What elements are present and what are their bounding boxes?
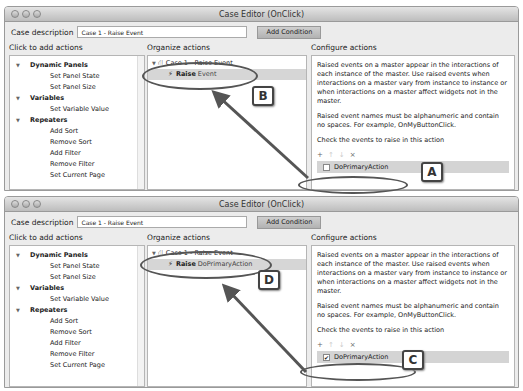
highlight-ellipse-b [142, 62, 258, 90]
annotation-arrows [0, 0, 523, 391]
callout-b: B [252, 86, 274, 106]
arrow-c-to-d [228, 290, 306, 372]
highlight-ellipse-d [140, 251, 272, 279]
callout-d: D [258, 270, 280, 290]
highlight-ellipse-a [298, 176, 408, 194]
callout-a: A [421, 162, 443, 182]
callout-c: C [402, 350, 424, 370]
arrow-a-to-b [218, 96, 308, 178]
highlight-ellipse-c [300, 363, 416, 381]
